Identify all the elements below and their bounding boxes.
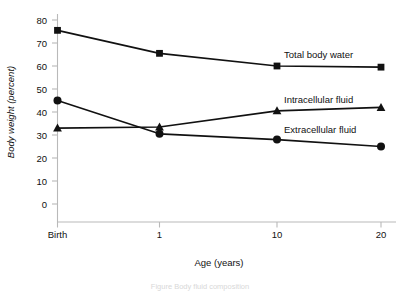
y-tick-label-20: 20	[36, 153, 47, 164]
marker-circle-birth	[54, 97, 62, 105]
x-tick-label-10: 10	[272, 229, 283, 240]
x-tick-label-20: 20	[376, 229, 387, 240]
marker-square-age10	[274, 63, 281, 70]
x-tick-label-birth: Birth	[48, 229, 68, 240]
y-tick-label-40: 40	[36, 107, 47, 118]
series-label-intracellular-fluid: Intracellular fluid	[284, 94, 353, 105]
x-tick-label-1: 1	[157, 229, 162, 240]
y-tick-label-50: 50	[36, 84, 47, 95]
y-tick-label-0: 0	[42, 199, 47, 210]
marker-square-birth	[54, 27, 61, 34]
figure-caption-ghost: Figure Body fluid composition	[0, 282, 400, 291]
y-axis-title: Body weight (percent)	[5, 66, 16, 158]
y-tick-label-70: 70	[36, 38, 47, 49]
line-chart: 80 70 60 50 40 30 20 10 0 Body weight (p…	[0, 0, 400, 292]
series-label-extracellular-fluid: Extracellular fluid	[284, 124, 356, 135]
y-tick-label-80: 80	[36, 15, 47, 26]
series-total-body-water: Total body water	[54, 27, 384, 71]
marker-square-age20	[378, 64, 385, 71]
marker-circle-age20	[377, 143, 385, 151]
marker-circle-age10	[273, 136, 281, 144]
marker-circle-age1	[156, 130, 164, 138]
y-tick-label-30: 30	[36, 130, 47, 141]
x-axis-title: Age (years)	[194, 257, 243, 268]
figure-body-fluid-composition: 80 70 60 50 40 30 20 10 0 Body weight (p…	[0, 0, 400, 292]
y-tick-label-10: 10	[36, 176, 47, 187]
series-label-total-body-water: Total body water	[284, 49, 353, 60]
y-tick-label-60: 60	[36, 61, 47, 72]
marker-square-age1	[156, 50, 163, 57]
